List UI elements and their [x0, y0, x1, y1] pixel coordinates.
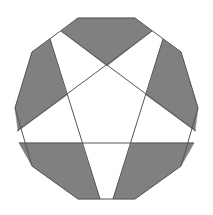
shaded-region-bottom-left	[19, 143, 100, 199]
shaded-region-right	[146, 39, 198, 131]
shaded-region-bottom-right	[113, 143, 194, 199]
shaded-regions	[15, 18, 198, 199]
figure-canvas	[0, 0, 213, 215]
shaded-region-top	[61, 18, 152, 66]
decagon-pentagram-figure	[0, 0, 213, 215]
shaded-region-left	[15, 39, 67, 131]
